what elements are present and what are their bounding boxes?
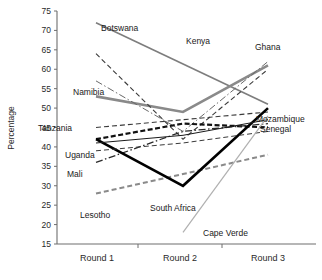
series-label-mali: Mali: [67, 169, 83, 179]
series-label-tanzania: Tanzania: [38, 123, 72, 133]
series-labels: BotswanaKenyaGhanaNamibiaTanzaniaMozambi…: [38, 23, 305, 238]
series-label-kenya: Kenya: [186, 36, 210, 46]
y-tick-label: 60: [42, 64, 52, 74]
y-tick-label: 65: [42, 45, 52, 55]
series-label-cape-verde: Cape Verde: [203, 228, 248, 238]
series-line-lesotho: [96, 155, 268, 194]
series-label-lesotho: Lesotho: [80, 210, 111, 220]
y-tick-label: 55: [42, 84, 52, 94]
x-tick-label-3: Round 3: [251, 253, 285, 263]
y-axis-title: Percentage: [6, 106, 16, 150]
y-tick-label: 75: [42, 6, 52, 16]
y-tick-label: 25: [42, 200, 52, 210]
y-tick-label: 50: [42, 103, 52, 113]
y-tick-label: 40: [42, 142, 52, 152]
y-tick-label: 15: [42, 239, 52, 249]
chart-canvas: 75706560555045403530252015 Round 1Round …: [0, 0, 322, 280]
series-label-uganda: Uganda: [65, 150, 95, 160]
series-lines: [96, 23, 268, 233]
y-tick-label: 20: [42, 220, 52, 230]
x-axis: Round 1Round 2Round 3: [57, 244, 316, 263]
series-label-senegal: Senegal: [260, 124, 291, 134]
x-tick-label-2: Round 2: [163, 253, 197, 263]
series-label-ghana: Ghana: [255, 42, 281, 52]
series-label-mozambique: Mozambique: [256, 114, 305, 124]
y-tick-label: 35: [42, 161, 52, 171]
line-chart: 75706560555045403530252015 Round 1Round …: [0, 0, 322, 280]
y-tick-label: 30: [42, 181, 52, 191]
series-line-botswana: [96, 23, 268, 105]
series-label-south-africa: South Africa: [150, 203, 196, 213]
series-label-namibia: Namibia: [73, 87, 104, 97]
y-tick-label: 70: [42, 25, 52, 35]
series-line-namibia: [96, 65, 268, 112]
series-line-tanzania: [96, 112, 268, 128]
series-label-botswana: Botswana: [101, 23, 139, 33]
series-line-mali: [96, 124, 268, 163]
x-tick-label-1: Round 1: [80, 253, 114, 263]
series-line-ghana: [96, 62, 268, 132]
